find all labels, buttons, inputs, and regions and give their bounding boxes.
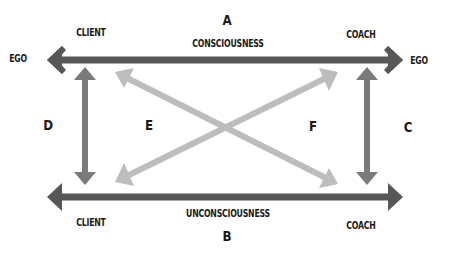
letter-a-label: A [223,12,232,28]
ego-left-label: EGO [9,53,27,64]
letter-b-label: B [223,228,232,244]
client-top-label: CLIENT [76,27,105,38]
ego-right-label: EGO [410,55,428,66]
letter-f-label: F [309,118,317,134]
letter-c-label: C [404,119,412,135]
horizontal-arrow-a [47,46,403,74]
vertical-arrow-c [356,67,378,185]
letter-e-label: E [145,117,153,133]
vertical-arrow-d [74,67,96,185]
consciousness-label: CONSCIOUSNESS [192,38,263,49]
coach-top-label: COACH [346,29,375,40]
coach-bottom-label: COACH [346,220,375,231]
letter-d-label: D [43,117,53,133]
unconsciousness-label: UNCONSCIOUSNESS [186,208,270,219]
client-bottom-label: CLIENT [76,217,105,228]
